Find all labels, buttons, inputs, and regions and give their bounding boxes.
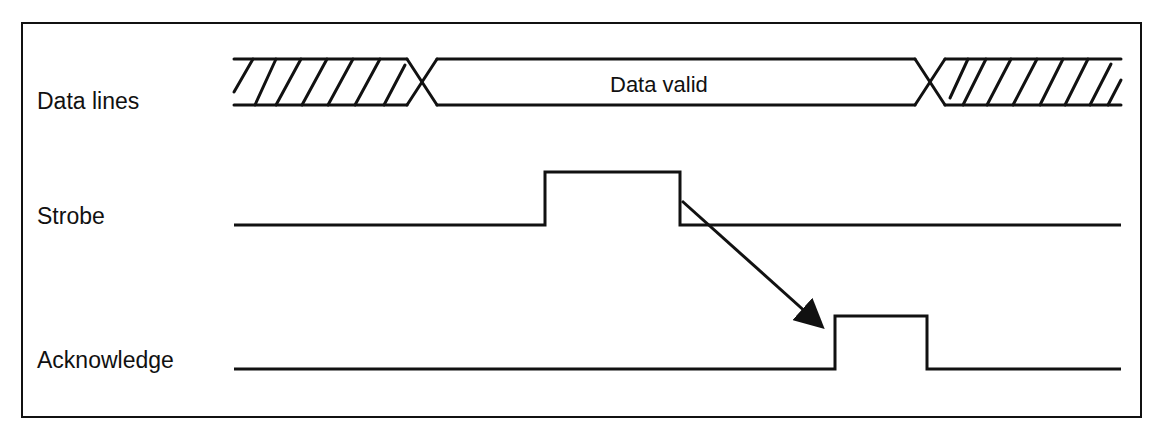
data-valid-label: Data valid: [610, 72, 708, 98]
strobe-to-acknowledge-arrow: [682, 201, 818, 323]
acknowledge-waveform: [234, 316, 1121, 369]
timing-waveforms: [0, 0, 1151, 429]
strobe-waveform: [234, 172, 1121, 225]
